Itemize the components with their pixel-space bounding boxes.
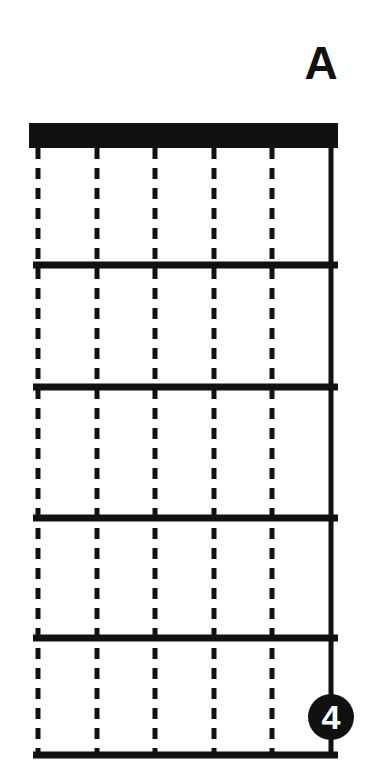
frets-group	[33, 265, 338, 755]
finger-marker-label: 4	[322, 698, 341, 736]
finger-markers-group: 4	[308, 694, 354, 740]
fretboard-graphic: 4	[0, 0, 379, 783]
nut-bar	[29, 123, 338, 148]
strings-group	[38, 148, 331, 755]
chord-diagram-root: A 4	[0, 0, 379, 783]
